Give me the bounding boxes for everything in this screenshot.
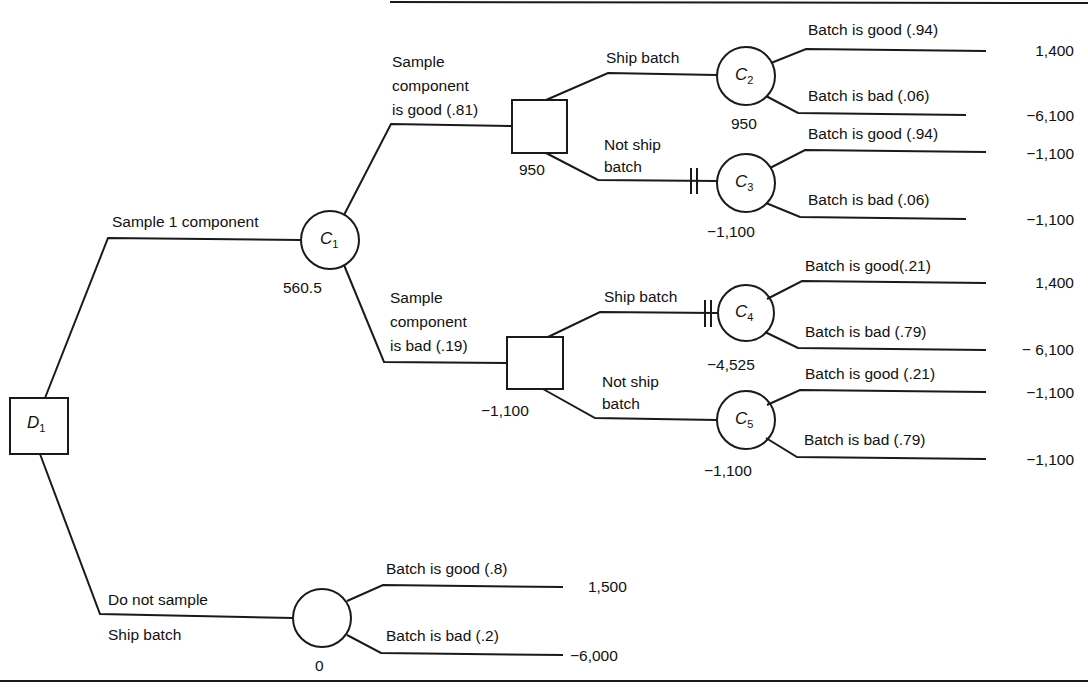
value-c4: −4,525 bbox=[707, 355, 755, 374]
label-do-not-sample: Do not sample bbox=[108, 590, 208, 609]
branch-b1-ship bbox=[546, 73, 717, 100]
payoff-c3-bad: −1,100 bbox=[1026, 210, 1074, 229]
label-c3-bad: Batch is bad (.06) bbox=[808, 190, 929, 209]
label-c5-bad: Batch is bad (.79) bbox=[804, 430, 925, 449]
label-b2-ship: Ship batch bbox=[604, 287, 677, 306]
label-b1-ship: Ship batch bbox=[606, 48, 679, 67]
label-b2-not-ship-2: batch bbox=[602, 394, 640, 413]
label-c2-bad: Batch is bad (.06) bbox=[808, 86, 929, 105]
decision-node-b1 bbox=[512, 100, 567, 153]
label-b1-not-ship-1: Not ship bbox=[604, 135, 661, 154]
payoff-c2-good: 1,400 bbox=[1035, 41, 1074, 60]
label-sample: Sample 1 component bbox=[112, 212, 258, 231]
branch-sample-good bbox=[344, 124, 512, 215]
node-label-c1: C1 bbox=[320, 229, 338, 250]
chance-node-c0 bbox=[293, 589, 351, 647]
payoff-c5-bad: −1,100 bbox=[1026, 450, 1074, 469]
label-sample-bad-2: component bbox=[390, 312, 467, 331]
value-c1: 560.5 bbox=[283, 278, 322, 297]
label-c3-good: Batch is good (.94) bbox=[808, 124, 938, 143]
label-c0-good: Batch is good (.8) bbox=[386, 559, 507, 578]
payoff-c5-good: −1,100 bbox=[1026, 383, 1074, 402]
payoff-c0-bad: −6,000 bbox=[570, 646, 618, 665]
value-c2: 950 bbox=[731, 114, 757, 133]
label-c4-good: Batch is good(.21) bbox=[805, 256, 931, 275]
node-label-d1: D1 bbox=[27, 413, 45, 434]
node-label-c4: C4 bbox=[735, 302, 753, 323]
branch-c5-good bbox=[767, 390, 986, 405]
value-c3: −1,100 bbox=[707, 222, 755, 241]
payoff-c4-bad: − 6,100 bbox=[1022, 340, 1074, 359]
value-c5: −1,100 bbox=[704, 461, 752, 480]
label-sample-good-1: Sample bbox=[392, 52, 445, 71]
top-border bbox=[390, 2, 1088, 3]
payoff-c4-good: 1,400 bbox=[1035, 273, 1074, 292]
value-b2: −1,100 bbox=[481, 401, 529, 420]
branch-c4-good bbox=[767, 281, 986, 299]
payoff-c2-bad: −6,100 bbox=[1026, 106, 1074, 125]
label-sample-bad-1: Sample bbox=[390, 288, 443, 307]
branch-c0-good bbox=[347, 585, 563, 601]
branch-c2-good bbox=[771, 49, 986, 63]
node-label-c5: C5 bbox=[735, 409, 753, 430]
node-label-c2: C2 bbox=[735, 65, 753, 86]
label-sample-bad-3: is bad (.19) bbox=[390, 336, 468, 355]
payoff-c0-good: 1,500 bbox=[588, 577, 627, 596]
node-label-c3: C3 bbox=[735, 172, 753, 193]
label-b1-not-ship-2: batch bbox=[604, 157, 642, 176]
value-c0: 0 bbox=[315, 656, 324, 675]
label-c2-good: Batch is good (.94) bbox=[808, 20, 938, 39]
branch-b2-ship bbox=[548, 312, 717, 337]
label-sample-good-2: component bbox=[392, 76, 469, 95]
label-ship-batch-direct: Ship batch bbox=[108, 625, 181, 644]
payoff-c3-good: −1,100 bbox=[1026, 144, 1074, 163]
decision-node-b2 bbox=[507, 337, 563, 389]
branch-c3-good bbox=[770, 150, 986, 168]
branch-sample bbox=[45, 238, 301, 398]
label-sample-good-3: is good (.81) bbox=[392, 100, 478, 119]
value-b1: 950 bbox=[519, 160, 545, 179]
label-c4-bad: Batch is bad (.79) bbox=[805, 322, 926, 341]
label-b2-not-ship-1: Not ship bbox=[602, 372, 659, 391]
label-c5-good: Batch is good (.21) bbox=[805, 364, 935, 383]
label-c0-bad: Batch is bad (.2) bbox=[386, 626, 499, 645]
